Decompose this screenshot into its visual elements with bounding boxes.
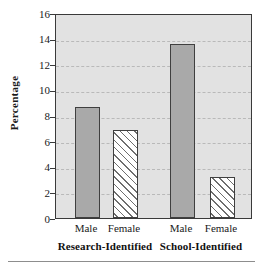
y-tick-label: 10 [10, 85, 50, 96]
bar-school-identified-male [170, 44, 195, 218]
y-tick-label: 16 [10, 9, 50, 20]
y-tick-label: 8 [10, 111, 50, 122]
plot-area [55, 14, 252, 219]
x-tick-label: Female [191, 222, 251, 234]
y-tick-mark [50, 219, 55, 220]
bar-research-identified-male [75, 107, 100, 218]
y-tick-label: 12 [10, 60, 50, 71]
bar-research-identified-female [113, 130, 138, 218]
x-tick-label: Female [94, 222, 154, 234]
y-tick-label: 4 [10, 162, 50, 173]
bars-layer [56, 15, 251, 218]
y-axis-label: Percentage [8, 58, 20, 148]
bar-school-identified-female [210, 177, 235, 218]
y-tick-label: 6 [10, 137, 50, 148]
y-tick-label: 14 [10, 34, 50, 45]
y-tick-label: 0 [10, 214, 50, 225]
bar-chart-figure: Percentage 1614121086420 MaleFemaleMaleF… [0, 0, 263, 269]
bottom-divider [8, 261, 255, 262]
group-label: School-Identified [141, 240, 261, 252]
y-tick-label: 2 [10, 188, 50, 199]
